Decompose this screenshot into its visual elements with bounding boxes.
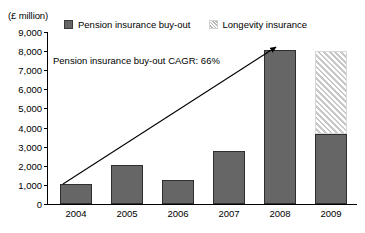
legend-label-longevity-insurance: Longevity insurance: [223, 20, 308, 30]
bar-series-group: [47, 32, 357, 204]
bar-pension-insurance-buy-out-2008[interactable]: [264, 50, 296, 204]
chart-legend: Pension insurance buy-out Longevity insu…: [64, 20, 307, 30]
x-tick-label-2005: 2005: [99, 208, 155, 219]
y-tick-label-3000: 3,000: [18, 141, 42, 152]
y-tick-label-7000: 7,000: [18, 65, 42, 76]
legend-item-pension-insurance-buy-out: Pension insurance buy-out: [64, 20, 191, 30]
x-tick-label-2009: 2009: [303, 208, 359, 219]
bar-chart: (£ million) Pension insurance buy-out Lo…: [0, 0, 365, 233]
bar-pension-insurance-buy-out-2006[interactable]: [162, 180, 194, 204]
x-tick-label-2007: 2007: [201, 208, 257, 219]
legend-label-pension-insurance-buy-out: Pension insurance buy-out: [78, 20, 191, 30]
y-axis-units-label: (£ million): [8, 10, 48, 21]
bar-pension-insurance-buy-out-2009[interactable]: [315, 134, 347, 204]
bar-pension-insurance-buy-out-2004[interactable]: [60, 184, 92, 204]
legend-item-longevity-insurance: Longevity insurance: [209, 20, 308, 30]
bar-longevity-insurance-2009[interactable]: [315, 51, 347, 134]
x-tick-label-2008: 2008: [252, 208, 308, 219]
x-tick-label-2004: 2004: [48, 208, 104, 219]
bar-pension-insurance-buy-out-2007[interactable]: [213, 151, 245, 205]
y-tick-label-9000: 9,000: [18, 27, 42, 38]
bar-pension-insurance-buy-out-2005[interactable]: [111, 165, 143, 204]
y-tick-label-8000: 8,000: [18, 46, 42, 57]
y-tick-label-1000: 1,000: [18, 179, 42, 190]
plot-area: 9,000 8,000 7,000 6,000 5,000 4,000 3,00…: [47, 32, 357, 204]
y-tick-label-2000: 2,000: [18, 160, 42, 171]
x-axis-line: [47, 204, 357, 205]
y-tick-mark-0: [44, 204, 47, 205]
y-tick-label-4000: 4,000: [18, 122, 42, 133]
x-tick-label-2006: 2006: [150, 208, 206, 219]
solid-square-icon: [64, 20, 73, 29]
hatched-square-icon: [209, 20, 218, 29]
y-tick-label-5000: 5,000: [18, 103, 42, 114]
y-tick-label-0: 0: [37, 199, 42, 210]
y-tick-label-6000: 6,000: [18, 84, 42, 95]
